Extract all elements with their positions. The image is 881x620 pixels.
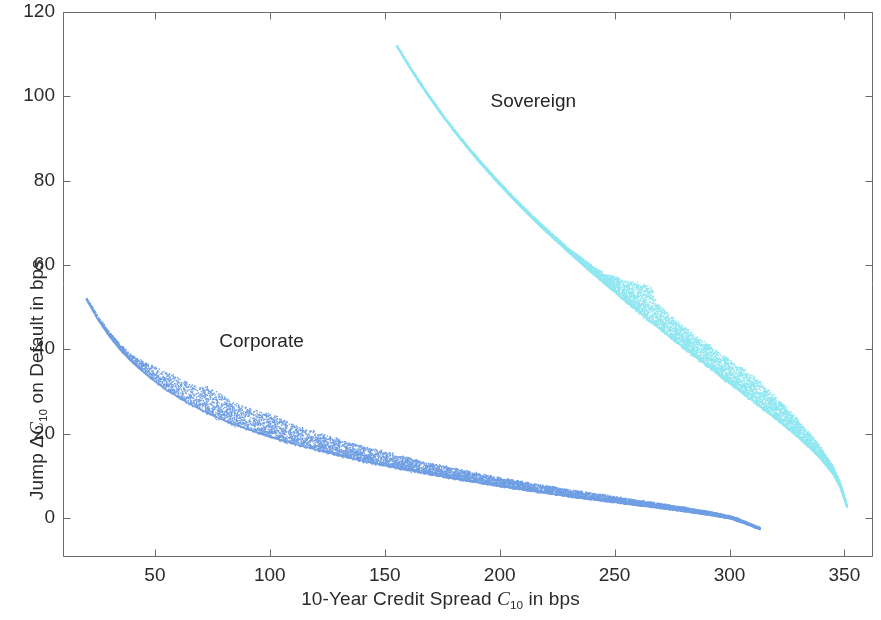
y-tick-label: 40 xyxy=(9,337,55,359)
y-tick-label: 120 xyxy=(9,0,55,22)
x-tick-label: 300 xyxy=(695,564,765,586)
x-axis-label-pre: 10-Year Credit Spread xyxy=(301,588,497,609)
x-axis-label-post: in bps xyxy=(523,588,580,609)
y-axis-label-post: on Default in bps xyxy=(26,259,47,409)
chart-figure: Jump ΔC10 on Default in bps 10-Year Cred… xyxy=(0,0,881,620)
y-tick-label: 0 xyxy=(9,506,55,528)
x-tick-label: 200 xyxy=(465,564,535,586)
y-tick-label: 60 xyxy=(9,253,55,275)
y-axis-label-subscript: 10 xyxy=(36,409,49,422)
x-axis-label-subscript: 10 xyxy=(510,598,523,611)
x-tick-label: 150 xyxy=(350,564,420,586)
x-axis-label: 10-Year Credit Spread C10 in bps xyxy=(0,588,881,611)
y-tick-label: 20 xyxy=(9,422,55,444)
x-axis-label-symbol: C xyxy=(497,588,510,609)
y-axis-label: Jump ΔC10 on Default in bps xyxy=(26,259,49,500)
series-annotation-sovereign: Sovereign xyxy=(490,90,576,112)
x-tick-label: 100 xyxy=(235,564,305,586)
y-tick-label: 100 xyxy=(9,84,55,106)
series-annotation-corporate: Corporate xyxy=(219,330,304,352)
y-tick-label: 80 xyxy=(9,169,55,191)
scatter-plot-canvas xyxy=(0,0,881,620)
x-tick-label: 250 xyxy=(580,564,650,586)
x-tick-label: 50 xyxy=(120,564,190,586)
y-axis-label-pre: Jump Δ xyxy=(26,435,47,500)
x-tick-label: 350 xyxy=(809,564,879,586)
